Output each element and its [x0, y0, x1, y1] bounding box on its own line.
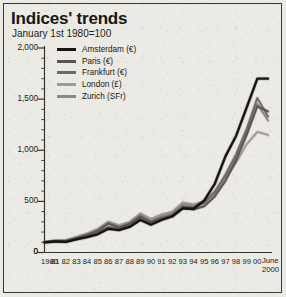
- x-axis-end-label: June2000: [262, 257, 279, 274]
- x-axis-end-label-year: 2000: [262, 266, 279, 275]
- chart-plot-area: [0, 0, 286, 297]
- y-axis-tick-label: 1,500: [4, 94, 38, 103]
- series-line: [45, 132, 269, 242]
- y-axis-ticks: [38, 48, 45, 253]
- y-axis-zero-label: 0: [4, 247, 38, 256]
- y-axis-tick-label: 2,000: [4, 43, 38, 52]
- chart-figure: Indices' trends January 1st 1980=100 Ams…: [0, 0, 286, 297]
- series-line-halo: [45, 132, 269, 242]
- y-axis-tick-label: 500: [4, 196, 38, 205]
- y-axis-tick-label: 1,000: [4, 145, 38, 154]
